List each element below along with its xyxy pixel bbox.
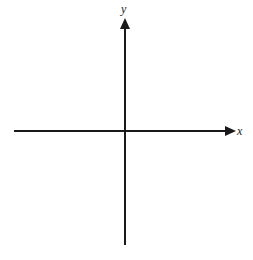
x-axis-arrow-icon (225, 126, 236, 136)
axes-graphic (0, 0, 253, 260)
y-axis-arrow-icon (120, 18, 130, 29)
x-axis-label: x (237, 125, 242, 137)
coordinate-plane: y x (0, 0, 253, 260)
y-axis-label: y (121, 3, 126, 15)
